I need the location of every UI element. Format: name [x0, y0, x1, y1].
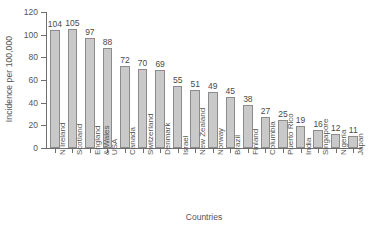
x-category-label: New Zealand: [199, 85, 208, 155]
x-category-label: USA: [111, 85, 120, 155]
y-tick-label-text: 0: [16, 144, 38, 152]
x-tick-mark: [283, 149, 284, 153]
x-tick-mark: [160, 149, 161, 153]
x-category-label: Puerto Rico: [287, 85, 296, 155]
y-tick-label-text: 100: [16, 31, 38, 39]
x-category-label: Denmark: [164, 85, 173, 155]
y-tick-label-text: 120: [16, 8, 38, 16]
x-category-label: Brazil: [234, 85, 243, 155]
x-tick-mark: [195, 149, 196, 153]
x-category-label: Singapore: [322, 85, 331, 155]
x-category-label: Switzerland: [147, 85, 156, 155]
x-category-label: Norway: [217, 85, 226, 155]
x-tick-mark: [230, 149, 231, 153]
x-tick-mark: [265, 149, 266, 153]
bar-value-label: 70: [133, 59, 153, 68]
bar-chart: Incidence per 100,000 020406080100120 10…: [0, 0, 378, 232]
x-category-label: India: [305, 85, 314, 155]
y-tick-label: 20: [14, 121, 38, 129]
x-tick-mark: [248, 149, 249, 153]
y-tick-label: 80: [14, 53, 38, 61]
y-tick-mark: [41, 148, 46, 149]
x-tick-mark: [336, 149, 337, 153]
x-category-label: Finland: [252, 85, 261, 155]
y-tick-label-text: 60: [16, 76, 38, 84]
y-tick-label: 100: [14, 31, 38, 39]
y-tick-label: 120: [14, 8, 38, 16]
x-category-label: Canada: [129, 85, 138, 155]
x-tick-mark: [143, 149, 144, 153]
bar-value-label: 105: [63, 19, 83, 28]
x-tick-mark: [318, 149, 319, 153]
x-category-label: Japan: [357, 85, 366, 155]
x-category-label: Israel: [182, 85, 191, 155]
x-category-label: England & Wales: [94, 85, 111, 155]
bar-value-label: 97: [80, 28, 100, 37]
y-tick-label-text: 80: [16, 53, 38, 61]
x-category-label: N Ireland: [59, 85, 68, 155]
x-tick-mark: [301, 149, 302, 153]
x-tick-mark: [213, 149, 214, 153]
x-tick-mark: [72, 149, 73, 153]
x-tick-mark: [90, 149, 91, 153]
x-tick-mark: [55, 149, 56, 153]
y-tick-label: 0: [14, 144, 38, 152]
x-category-label: Scotland: [76, 85, 85, 155]
x-tick-mark: [353, 149, 354, 153]
y-tick-label-text: 40: [16, 99, 38, 107]
y-tick-label: 40: [14, 99, 38, 107]
bar-value-label: 55: [168, 76, 188, 85]
x-category-label: Columbia: [269, 85, 278, 155]
x-tick-mark: [178, 149, 179, 153]
y-tick-label: 60: [14, 76, 38, 84]
x-tick-mark: [125, 149, 126, 153]
bar-value-label: 88: [98, 38, 118, 47]
x-category-label: Nigeria: [340, 85, 349, 155]
x-axis-title: Countries: [0, 212, 378, 222]
bar-value-label: 69: [150, 60, 170, 69]
y-tick-label-text: 20: [16, 121, 38, 129]
